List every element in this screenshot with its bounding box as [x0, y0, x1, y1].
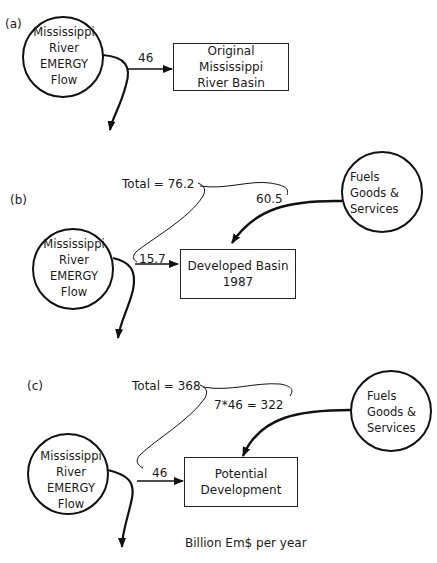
outflow-curve-b	[113, 258, 134, 338]
target-box-a: Original Mississippi River Basin	[173, 43, 289, 91]
purchased-value-b: 60.5	[256, 192, 283, 206]
text-line: Fuels	[350, 169, 422, 185]
text-line: 1987	[188, 274, 289, 290]
text-line: River	[32, 464, 110, 480]
text-line: EMERGY	[25, 56, 103, 72]
text-line: Goods &	[367, 404, 437, 420]
text-line: Flow	[32, 496, 110, 512]
text-line: Goods &	[350, 185, 422, 201]
target-box-c: Potential Development	[184, 457, 298, 507]
text-line: Mississippi	[35, 236, 113, 252]
text-line: Mississippi	[25, 24, 103, 40]
text-line: River	[25, 40, 103, 56]
units-note: Billion Em$ per year	[185, 536, 307, 550]
text-line: Services	[350, 201, 422, 217]
panel-label-a: (a)	[5, 17, 22, 31]
purchased-label-b: Fuels Goods & Services	[350, 169, 422, 217]
purchased-curve-b	[232, 201, 342, 243]
target-box-b: Developed Basin 1987	[180, 249, 296, 299]
flow-value-a: 46	[138, 51, 153, 65]
text-line: River	[35, 252, 113, 268]
panel-label-c: (c)	[27, 379, 43, 393]
text-line: Mississippi	[32, 448, 110, 464]
source-label-a: Mississippi River EMERGY Flow	[25, 24, 103, 88]
text-line: River Basin	[174, 75, 288, 91]
text-line: EMERGY	[32, 480, 110, 496]
total-b: Total = 76.2	[122, 177, 194, 191]
text-line: Fuels	[367, 388, 437, 404]
text-line: EMERGY	[35, 268, 113, 284]
purchased-value-c: 7*46 = 322	[214, 398, 284, 412]
outflow-curve-a	[103, 55, 128, 130]
text-line: Potential	[201, 466, 282, 482]
text-line: Developed Basin	[188, 258, 289, 274]
text-line: Flow	[25, 72, 103, 88]
purchased-label-c: Fuels Goods & Services	[367, 388, 437, 436]
total-c: Total = 368	[132, 379, 201, 393]
text-line: Development	[201, 482, 282, 498]
source-label-b: Mississippi River EMERGY Flow	[35, 236, 113, 300]
text-line: Services	[367, 420, 437, 436]
source-label-c: Mississippi River EMERGY Flow	[32, 448, 110, 512]
purchased-curve-c	[243, 410, 351, 456]
flow-value-c: 46	[152, 466, 167, 480]
panel-label-b: (b)	[10, 193, 27, 207]
text-line: Original Mississippi	[174, 43, 288, 75]
outflow-curve-c	[108, 470, 133, 547]
flow-value-b: 15.7	[139, 252, 166, 266]
text-line: Flow	[35, 284, 113, 300]
